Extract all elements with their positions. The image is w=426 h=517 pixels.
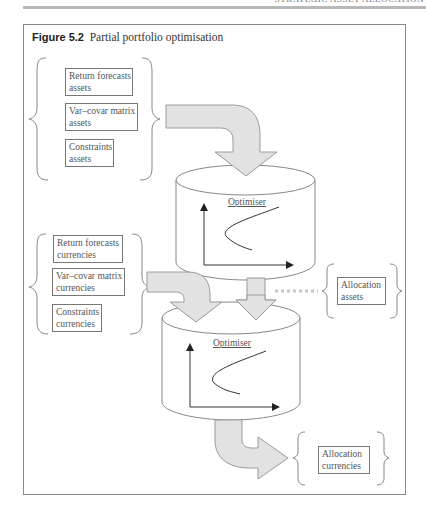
- output-box-allocation-assets: Allocation assets: [337, 277, 386, 305]
- box-line: currencies: [56, 318, 98, 330]
- input-box-varcovar-currencies: Var–covar matrix currencies: [52, 268, 125, 296]
- box-line: Allocation: [341, 279, 382, 291]
- arrow-assets-to-optimiser: [166, 105, 277, 176]
- box-line: Return forecasts: [69, 70, 129, 82]
- box-line: assets: [69, 153, 110, 165]
- box-line: currencies: [56, 282, 121, 294]
- box-line: Constraints: [69, 141, 110, 153]
- box-line: Var–covar matrix: [69, 105, 134, 117]
- box-line: Return forecasts: [57, 237, 119, 249]
- input-box-constraints-assets: Constraints assets: [65, 139, 114, 167]
- optimiser-cylinder-lower: [162, 302, 300, 420]
- brace-currencies-left: [29, 234, 48, 334]
- box-line: assets: [341, 291, 382, 303]
- box-line: currencies: [322, 460, 366, 472]
- box-line: Allocation: [322, 448, 366, 460]
- arrow-optimiser-to-allocation-currencies: [215, 420, 288, 479]
- box-line: Constraints: [56, 306, 98, 318]
- input-box-varcovar-assets: Var–covar matrix assets: [65, 103, 138, 131]
- output-box-allocation-currencies: Allocation currencies: [318, 446, 370, 474]
- brace-assets-left: [29, 58, 48, 180]
- input-box-return-forecasts-assets: Return forecasts assets: [65, 68, 133, 96]
- input-box-return-forecasts-currencies: Return forecasts currencies: [53, 235, 123, 263]
- box-line: assets: [69, 82, 129, 94]
- box-line: currencies: [57, 249, 119, 261]
- brace-assets-right: [140, 58, 160, 180]
- box-line: Var–covar matrix: [56, 270, 121, 282]
- input-box-constraints-currencies: Constraints currencies: [52, 304, 102, 332]
- box-line: assets: [69, 117, 134, 129]
- optimiser-label-lower: Optimiser: [213, 338, 251, 348]
- optimiser-cylinder-upper: [176, 165, 315, 280]
- optimiser-label-upper: Optimiser: [228, 197, 266, 207]
